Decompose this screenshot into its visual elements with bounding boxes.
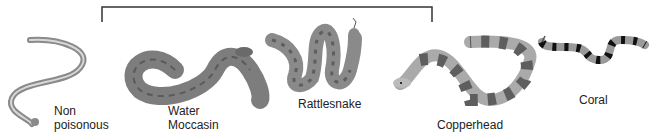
label-water-moccasin: Water Moccasin: [168, 104, 219, 132]
rattlesnake-snake: [272, 18, 360, 85]
label-rattlesnake: Rattlesnake: [298, 97, 361, 111]
label-copperhead: Copperhead: [437, 118, 503, 132]
water-moccasin-snake: [133, 47, 260, 100]
copperhead-snake: [393, 42, 530, 100]
coral-snake: [542, 36, 645, 60]
label-coral: Coral: [579, 93, 608, 107]
label-non-poisonous: Non poisonous: [54, 104, 109, 132]
group-bracket: [102, 7, 432, 22]
